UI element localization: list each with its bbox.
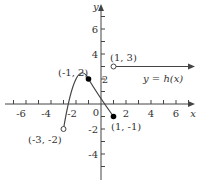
svg-text:(-3, -2): (-3, -2) bbox=[28, 134, 62, 145]
open-point-1-3 bbox=[111, 64, 116, 69]
y-axis-arrow-icon bbox=[98, 4, 104, 11]
svg-text:-2: -2 bbox=[88, 124, 98, 135]
x-tick-labels: -6 -4 -2 0 2 4 6 bbox=[16, 107, 179, 119]
y-axis-label: y bbox=[92, 1, 99, 12]
y-tick-labels: 6 4 2 -2 -4 bbox=[88, 24, 108, 160]
svg-text:(1, 3): (1, 3) bbox=[110, 52, 137, 63]
svg-text:4: 4 bbox=[148, 108, 154, 119]
svg-text:4: 4 bbox=[92, 49, 98, 60]
function-graph: -6 -4 -2 0 2 4 6 x y 6 4 2 -2 -4 (-1, 2)… bbox=[0, 0, 198, 186]
svg-text:(1, -1): (1, -1) bbox=[111, 121, 141, 132]
svg-text:6: 6 bbox=[173, 108, 179, 119]
open-point-neg3-neg2 bbox=[61, 127, 66, 132]
x-axis-arrow-icon bbox=[188, 101, 195, 107]
function-label: y = h(x) bbox=[142, 73, 183, 84]
svg-text:2: 2 bbox=[102, 74, 108, 85]
svg-text:0: 0 bbox=[93, 107, 99, 118]
svg-text:-6: -6 bbox=[16, 108, 26, 119]
closed-point-1-neg1 bbox=[111, 114, 117, 120]
x-axis-label: x bbox=[190, 108, 196, 119]
y-ticks bbox=[101, 17, 105, 167]
svg-text:-4: -4 bbox=[88, 149, 98, 160]
svg-text:-4: -4 bbox=[41, 108, 51, 119]
svg-text:(-1, 2): (-1, 2) bbox=[58, 67, 88, 78]
svg-text:-2: -2 bbox=[67, 108, 77, 119]
svg-text:6: 6 bbox=[92, 24, 98, 35]
ray-arrow-icon bbox=[188, 64, 195, 70]
svg-text:2: 2 bbox=[123, 108, 129, 119]
